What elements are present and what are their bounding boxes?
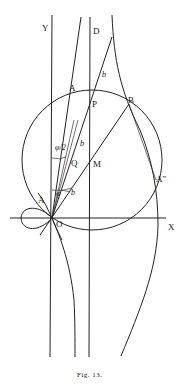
label-b: B: [128, 95, 134, 105]
tick-b: [62, 190, 70, 192]
line-ob: [40, 104, 129, 235]
circle: [22, 90, 162, 230]
label-o: O: [56, 219, 63, 229]
line-oq: [52, 120, 78, 218]
label-m: M: [93, 159, 101, 169]
angle-phi-half-arc: [52, 157, 66, 159]
label-phi-half: φ/2: [55, 143, 66, 152]
label-x: X: [168, 222, 175, 232]
asymptote-d: [89, 17, 90, 357]
label-a-double: A″: [156, 174, 166, 184]
label-b-top: b: [102, 70, 106, 79]
curve-inner-branch: [52, 218, 75, 357]
label-a-top: A: [69, 83, 76, 93]
label-b-low: b: [71, 188, 75, 197]
figure-diagram: Y D A B P b b Q M φ/2 φ b A O A″ X Fig. …: [0, 0, 186, 390]
line-ba: [129, 104, 156, 180]
label-d: D: [93, 26, 100, 36]
label-p: P: [92, 99, 97, 109]
figure-caption: Fig. 13.: [77, 371, 103, 379]
y-axis: [50, 15, 52, 357]
line-oa: [52, 17, 81, 218]
curve-right-branch: [112, 15, 158, 356]
label-phi: φ: [56, 189, 61, 198]
label-b-mid: b: [80, 139, 84, 148]
label-y: Y: [42, 23, 49, 33]
label-a-left: A: [38, 195, 45, 205]
label-q: Q: [71, 158, 78, 168]
line-oq2: [52, 120, 74, 218]
